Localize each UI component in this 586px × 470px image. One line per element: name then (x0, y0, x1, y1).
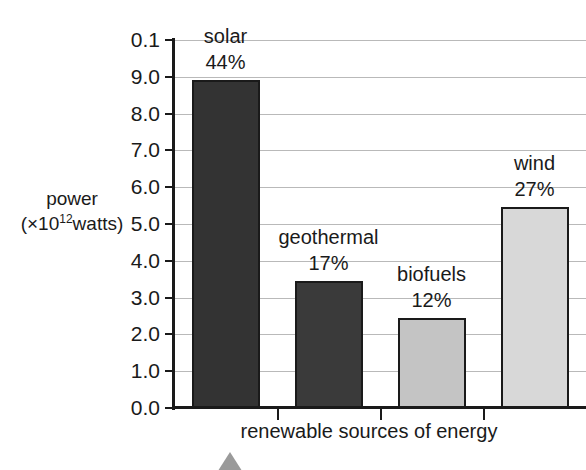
bar-biofuels[interactable] (398, 318, 466, 408)
bar-label-biofuels: biofuels (352, 262, 512, 286)
y-axis-tick-label: 5.0 (104, 213, 160, 234)
bar-value-solar: 44% (156, 50, 296, 74)
bar-label-wind: wind (455, 151, 586, 175)
y-axis-title-exponent: 12 (59, 212, 72, 226)
y-axis-title-prefix: (×10 (21, 213, 60, 234)
y-axis-tick-label: 7.0 (104, 139, 160, 160)
bar-label-solar: solar (146, 24, 306, 48)
y-axis-tick-label: 1.0 (104, 360, 160, 381)
bar-wind[interactable] (501, 207, 569, 408)
y-axis-tick-label: 8.0 (104, 103, 160, 124)
plot-area (174, 40, 586, 408)
y-axis-tick-label: 4.0 (104, 250, 160, 271)
y-axis-tick-label: 2.0 (104, 323, 160, 344)
y-axis-tick-label: 6.0 (104, 176, 160, 197)
bar-label-geothermal: geothermal (249, 225, 409, 249)
bar-value-wind: 27% (465, 177, 586, 201)
pointer-triangle-marker (216, 452, 244, 470)
bar-value-biofuels: 12% (362, 288, 502, 312)
y-axis-tick-label: 9.0 (104, 66, 160, 87)
bar-chart: power (×1012watts) 0.19.08.07.06.05.04.0… (0, 0, 586, 470)
x-axis-title: renewable sources of energy (174, 418, 564, 444)
y-axis-tick-label: 3.0 (104, 287, 160, 308)
bar-geothermal[interactable] (295, 281, 363, 408)
y-axis-tick-label: 0.0 (104, 397, 160, 418)
